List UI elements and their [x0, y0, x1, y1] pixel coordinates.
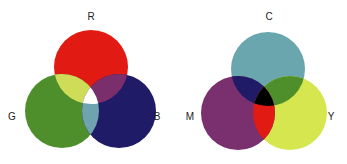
label-y: Y [328, 111, 335, 122]
label-g: G [8, 111, 16, 122]
cmy-venn-diagram: C M Y [186, 11, 335, 150]
label-c: C [265, 11, 272, 22]
label-m: M [186, 111, 194, 122]
color-models-figure: R G B C M Y [0, 0, 347, 164]
rgb-venn-diagram: R G B [8, 11, 161, 148]
label-r: R [87, 11, 94, 22]
label-b: B [154, 111, 161, 122]
